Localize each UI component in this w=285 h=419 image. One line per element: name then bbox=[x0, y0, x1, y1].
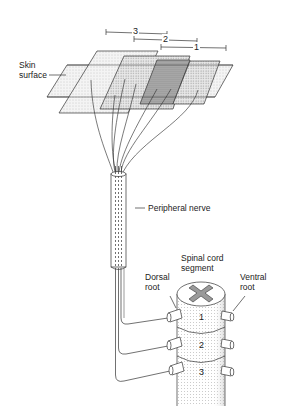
spinal-cord-segment-label: Spinal cord segment bbox=[181, 253, 224, 273]
peripheral-nerve bbox=[111, 166, 126, 270]
dorsal-root-pointer bbox=[170, 296, 176, 308]
skin-planes bbox=[47, 51, 233, 113]
dorsal-root-label: Dorsal root bbox=[145, 272, 170, 292]
ventral-root-pointer bbox=[233, 296, 245, 311]
ventral-root-label: Ventral root bbox=[240, 272, 266, 292]
dermatome-diagram: Skin surface Peripheral nerve Spinal cor… bbox=[0, 0, 285, 419]
dermatome-label-1: 1 bbox=[193, 42, 200, 52]
spinal-segment-2: 2 bbox=[199, 340, 204, 350]
spinal-segment-3: 3 bbox=[199, 367, 204, 377]
spinal-segment-1: 1 bbox=[199, 312, 204, 322]
peripheral-nerve-label: Peripheral nerve bbox=[148, 203, 210, 213]
dermatome-label-2: 2 bbox=[162, 34, 169, 44]
skin-surface-label: Skin surface bbox=[19, 60, 47, 80]
dermatome-label-3: 3 bbox=[132, 26, 139, 36]
